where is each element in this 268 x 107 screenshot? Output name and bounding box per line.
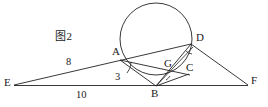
point-label-D: D xyxy=(196,32,204,43)
point-label-E: E xyxy=(4,77,11,88)
geometry-canvas xyxy=(0,0,268,107)
length-label-EA: 8 xyxy=(66,57,71,68)
length-label-AB: 3 xyxy=(115,72,120,83)
point-label-F: F xyxy=(251,75,257,86)
geometry-figure: 图2 E A B G C D F 8 3 10 xyxy=(0,0,268,107)
angle-arc-at-B xyxy=(166,76,170,80)
point-label-B: B xyxy=(151,88,158,99)
point-label-C: C xyxy=(186,62,193,73)
point-label-A: A xyxy=(112,46,120,57)
angle-arc-at-A xyxy=(127,62,131,73)
segment-DF xyxy=(191,44,248,85)
point-label-G: G xyxy=(164,58,172,69)
length-label-EB: 10 xyxy=(76,90,87,101)
figure-caption: 图2 xyxy=(55,27,73,43)
